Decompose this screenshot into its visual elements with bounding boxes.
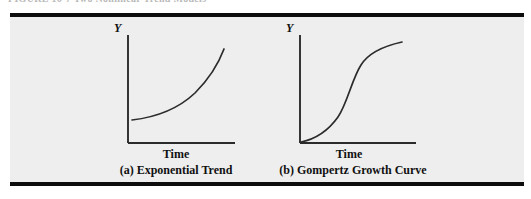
figure-bottom-rule — [10, 182, 524, 186]
panel-caption-b: (b) Gompertz Growth Curve — [264, 164, 442, 176]
figure-plot-area: Y Time (a) Exponential Trend Y — [10, 17, 524, 182]
figure-root: FIGURE 16-7 Two Nonlinear Trend Models Y… — [0, 0, 531, 199]
chart-panel-exponential-trend: Y Time (a) Exponential Trend — [98, 17, 258, 182]
x-axis-label: Time — [106, 148, 246, 160]
exponential-trend-plot — [98, 17, 258, 157]
figure-top-cutoff-caption: FIGURE 16-7 Two Nonlinear Trend Models — [0, 0, 531, 11]
x-axis-label: Time — [274, 148, 424, 160]
chart-panel-gompertz-growth-curve: Y Time (b) Gompertz Growth Curve — [268, 17, 438, 182]
gompertz-growth-plot — [268, 17, 438, 157]
panel-caption-a: (a) Exponential Trend — [96, 164, 256, 176]
figure-top-cutoff-caption-text: FIGURE 16-7 Two Nonlinear Trend Models — [8, 0, 206, 4]
exponential-curve — [132, 49, 224, 120]
gompertz-curve — [301, 42, 402, 142]
